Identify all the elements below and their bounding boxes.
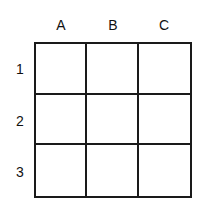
cell-c3 (139, 145, 190, 196)
column-label-b: B (103, 18, 123, 32)
cell-b1 (87, 44, 138, 95)
cell-a3 (36, 145, 87, 196)
cell-b3 (87, 145, 138, 196)
cell-a1 (36, 44, 87, 95)
cell-a2 (36, 95, 87, 146)
cell-b2 (87, 95, 138, 146)
three-by-three-grid (34, 42, 192, 198)
cell-c1 (139, 44, 190, 95)
column-label-a: A (51, 18, 71, 32)
cell-c2 (139, 95, 190, 146)
row-label-2: 2 (14, 114, 26, 128)
column-label-c: C (154, 18, 174, 32)
row-label-1: 1 (14, 62, 26, 76)
row-label-3: 3 (14, 165, 26, 179)
